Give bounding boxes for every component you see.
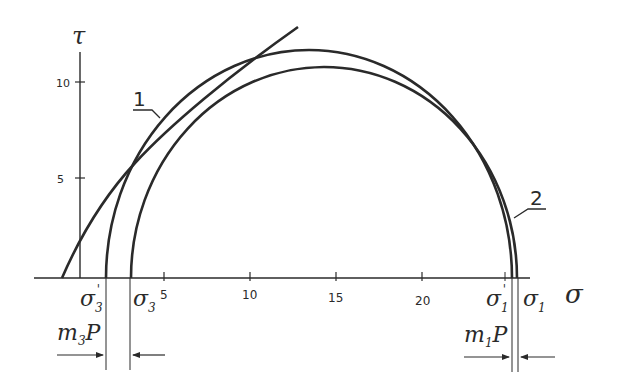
tau-tick-label-10: 10 [56,77,70,90]
m3P-arrowhead-right [132,352,140,358]
sigma-axis-label: σ [565,279,584,309]
sigma-tick-label-5: 5 [160,288,168,302]
sigma3-label: σ3 [133,286,156,315]
m1P-arrowhead-left [502,354,510,360]
m3P-arrowhead-left [96,352,104,358]
sigma1-prime-label: σ1' [486,283,509,315]
mohr-circle-diagram: τ σ 10 5 5 10 15 20 1 2 σ3' σ3 σ1' σ1 m3… [0,0,617,390]
envelope-label-1: 1 [133,87,146,111]
tau-axis-label: τ [72,22,86,50]
label-1-leader [133,110,160,118]
envelope-curve [62,27,298,278]
mohr-circle-inner [131,67,517,278]
m1P-arrowhead-right [520,354,528,360]
label-2-leader [514,209,546,218]
m3P-label: m3P [57,320,102,348]
tau-tick-label-5: 5 [57,173,64,186]
m1P-label: m1P [464,322,509,350]
sigma-tick-label-20: 20 [415,294,430,308]
sigma3-prime-label: σ3' [80,283,103,315]
sigma-tick-label-15: 15 [328,291,343,305]
sigma1-label: σ1 [523,286,546,315]
mohr-circle-outer [106,50,512,278]
sigma-tick-label-10: 10 [242,288,257,302]
circle-label-2: 2 [530,186,543,210]
